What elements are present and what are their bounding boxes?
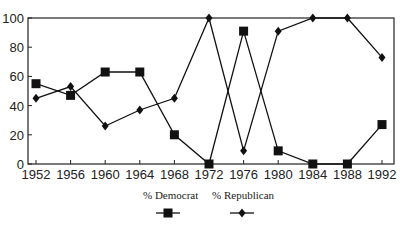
democrat-square-marker: [32, 79, 41, 88]
democrat-square-marker: [66, 91, 75, 100]
legend-label: % Republican: [212, 189, 275, 201]
republican-diamond-marker: [206, 14, 213, 23]
chart-legend: % Democrat% Republican: [143, 189, 275, 218]
republican-diamond-marker: [33, 94, 40, 103]
republican-diamond-marker: [136, 105, 143, 114]
x-tick-label: 1980: [264, 167, 293, 182]
democrat-square-marker: [239, 27, 248, 36]
x-tick-label: 1956: [56, 167, 85, 182]
legend-label: % Democrat: [143, 189, 198, 201]
y-tick-label: 40: [10, 99, 24, 114]
x-tick-label: 1952: [22, 167, 51, 182]
y-tick-label: 20: [10, 128, 24, 143]
republican-diamond-marker: [309, 14, 316, 23]
democrat-square-marker: [343, 160, 352, 169]
legend-item-democrat: % Democrat: [143, 189, 198, 218]
x-tick-label: 1968: [160, 167, 189, 182]
democrat-square-marker: [205, 160, 214, 169]
republican-series: [33, 14, 386, 156]
line-chart: 0204060801001952195619601964196819721976…: [0, 0, 407, 227]
x-tick-label: 1984: [298, 167, 327, 182]
x-tick-label: 1964: [125, 167, 154, 182]
legend-item-republican: % Republican: [212, 189, 275, 218]
democrat-square-marker: [170, 130, 179, 139]
democrat-square-marker: [101, 68, 110, 77]
x-tick-label: 1976: [229, 167, 258, 182]
y-tick-label: 80: [10, 40, 24, 55]
democrat-square-marker: [378, 120, 387, 129]
x-tick-label: 1988: [333, 167, 362, 182]
chart-series: [32, 14, 387, 169]
legend-republican-diamond-marker: [239, 209, 246, 218]
x-tick-label: 1960: [91, 167, 120, 182]
democrat-square-marker: [308, 160, 317, 169]
republican-diamond-marker: [171, 94, 178, 103]
democrat-series: [32, 27, 387, 169]
democrat-square-marker: [274, 146, 283, 155]
democrat-square-marker: [135, 68, 144, 77]
x-tick-label: 1972: [195, 167, 224, 182]
republican-diamond-marker: [240, 146, 247, 155]
y-tick-label: 100: [2, 11, 24, 26]
democrat-line: [36, 31, 382, 164]
legend-democrat-square-marker: [164, 209, 173, 218]
plot-frame: [28, 18, 394, 164]
x-tick-label: 1992: [368, 167, 397, 182]
y-tick-label: 60: [10, 69, 24, 84]
republican-diamond-marker: [275, 27, 282, 36]
